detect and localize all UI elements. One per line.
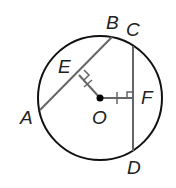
segment-oe xyxy=(79,75,100,98)
label-o: O xyxy=(92,108,107,127)
right-angle-e xyxy=(84,70,89,80)
label-d: D xyxy=(127,158,141,177)
center-point xyxy=(97,95,104,102)
label-b: B xyxy=(106,13,119,32)
label-f: F xyxy=(141,88,153,107)
label-e: E xyxy=(58,57,71,76)
label-c: C xyxy=(126,20,140,39)
diagram: B C E F A O D xyxy=(0,0,176,188)
label-a: A xyxy=(20,108,33,127)
